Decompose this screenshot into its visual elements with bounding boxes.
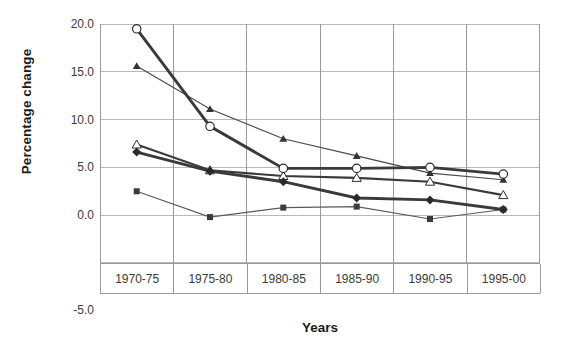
x-axis-title: Years (100, 320, 540, 335)
y-tick-label: -5.0 (48, 303, 94, 317)
plot-svg (100, 24, 540, 263)
y-tick-label: 15.0 (48, 65, 94, 79)
y-axis-tick-labels: 20.0 15.0 10.0 5.0 0.0 -5.0 (42, 0, 94, 354)
y-tick-label: 5.0 (48, 160, 94, 174)
x-tick-label: 1985-90 (321, 264, 394, 293)
y-tick-label: 20.0 (48, 17, 94, 31)
x-tick-label: 1990-95 (394, 264, 467, 293)
x-tick-label: 1995-00 (468, 264, 541, 293)
x-tick-label: 1975-80 (174, 264, 247, 293)
y-tick-label: 10.0 (48, 113, 94, 127)
plot-area (100, 24, 540, 263)
x-tick-label: 1970-75 (101, 264, 174, 293)
y-axis-title: Percentage change (19, 22, 34, 202)
line-chart: Percentage change 20.0 15.0 10.0 5.0 0.0… (0, 0, 561, 354)
x-tick-label: 1980-85 (248, 264, 321, 293)
grid-lines-vertical (101, 24, 540, 263)
y-tick-label: 0.0 (48, 208, 94, 222)
x-axis-tick-labels: 1970-75 1975-80 1980-85 1985-90 1990-95 … (100, 263, 540, 294)
